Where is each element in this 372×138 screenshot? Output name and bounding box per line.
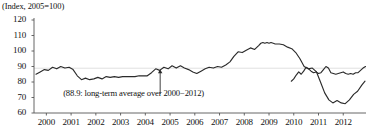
x-axis-tick-label: 2012 bbox=[326, 117, 360, 127]
y-axis-tick-label: 60 bbox=[4, 107, 26, 117]
y-axis-tick-label: 110 bbox=[4, 30, 26, 40]
y-axis-tick-label: 100 bbox=[4, 45, 26, 55]
chart-figure: (Index, 2005=100) 60708090100110120 2000… bbox=[0, 0, 372, 138]
y-axis-tick-label: 80 bbox=[4, 76, 26, 86]
y-axis-tick-label: 70 bbox=[4, 92, 26, 102]
average-annotation-label: (88.9: long-term average over 2000−2012) bbox=[63, 88, 204, 98]
y-axis-tick-label: 120 bbox=[4, 14, 26, 24]
axes bbox=[32, 18, 367, 116]
y-axis-tick-label: 90 bbox=[4, 61, 26, 71]
